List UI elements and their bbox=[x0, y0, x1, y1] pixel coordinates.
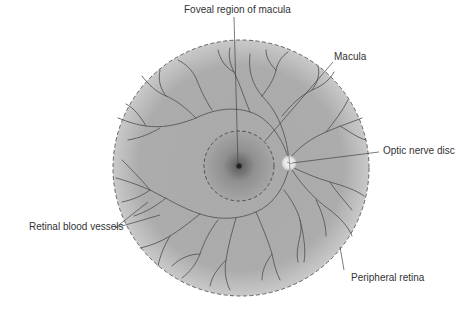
label-peripheral-retina: Peripheral retina bbox=[351, 272, 424, 283]
label-optic-nerve-disc: Optic nerve disc bbox=[383, 145, 455, 156]
label-macula: Macula bbox=[334, 51, 366, 62]
label-retinal-blood-vessels: Retinal blood vessels bbox=[29, 221, 124, 232]
fovea-center bbox=[237, 164, 242, 169]
label-foveal-region: Foveal region of macula bbox=[184, 4, 291, 15]
